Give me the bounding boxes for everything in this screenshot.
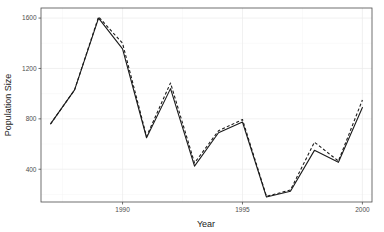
plot-panel-background [41,8,372,202]
chart-canvas: 40080012001600 199019952000 Year Populat… [0,0,384,232]
x-axis-ticks: 199019952000 [115,202,370,213]
x-tick-label: 2000 [355,206,370,213]
population-size-line-chart: 40080012001600 199019952000 Year Populat… [0,0,384,232]
x-axis-title: Year [197,219,215,229]
y-axis-title: Population Size [3,74,13,137]
y-tick-label: 1200 [22,65,37,72]
y-tick-label: 400 [26,166,37,173]
x-tick-label: 1990 [115,206,130,213]
y-tick-label: 1600 [22,14,37,21]
x-tick-label: 1995 [235,206,250,213]
y-tick-label: 800 [26,115,37,122]
y-axis-ticks: 40080012001600 [22,14,41,172]
